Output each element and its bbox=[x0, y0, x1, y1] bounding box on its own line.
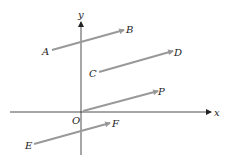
x-axis-label: x bbox=[214, 107, 220, 118]
point-p-label: P bbox=[157, 86, 165, 97]
vector-ef bbox=[34, 123, 110, 144]
vector-ab bbox=[52, 30, 124, 50]
point-f-label: F bbox=[111, 118, 120, 129]
point-b-label: B bbox=[125, 24, 133, 35]
point-c-label: C bbox=[89, 68, 97, 79]
y-axis-label: y bbox=[77, 9, 84, 20]
vector-diagram: x y O A B C D P E F bbox=[0, 0, 227, 162]
vector-cd bbox=[99, 51, 173, 72]
point-d-label: D bbox=[173, 47, 182, 58]
origin-label: O bbox=[72, 115, 80, 126]
vector-op bbox=[83, 91, 158, 111]
point-a-label: A bbox=[41, 46, 49, 57]
point-e-label: E bbox=[24, 140, 33, 151]
